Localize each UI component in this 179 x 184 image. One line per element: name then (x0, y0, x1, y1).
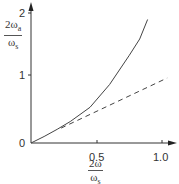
x-label-numerator: 2ω (89, 157, 102, 169)
x-axis-label: 2ω ωs (88, 158, 103, 184)
y-axis-label: 2ωa ωs (4, 19, 22, 52)
y-tick-label-1: 1 (19, 70, 25, 81)
x-axis-arrow-icon (168, 141, 177, 146)
y-label-denominator-sub: s (15, 42, 18, 51)
linear-reference-line (61, 78, 167, 128)
y-label-numerator-sub: a (18, 24, 22, 33)
y-axis-arrow-icon (29, 2, 34, 11)
x-tick-label-10: 1.0 (153, 152, 168, 163)
y-tick-label-2: 2 (19, 8, 25, 19)
y-label-numerator: 2ω (5, 18, 18, 30)
warping-curve (31, 20, 148, 144)
x-label-denominator-sub: s (97, 177, 100, 184)
y-tick-label-0: 0 (19, 138, 25, 149)
